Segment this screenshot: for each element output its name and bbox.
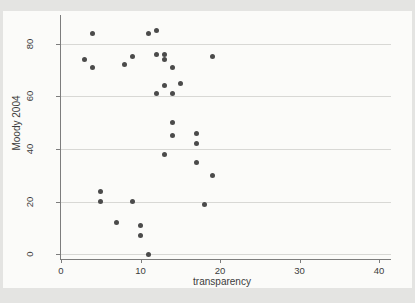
data-point (82, 57, 87, 62)
y-axis-title: Moody 2004 (11, 95, 22, 150)
data-point (162, 83, 167, 88)
y-gridline (61, 44, 391, 45)
x-tick-mark (220, 259, 221, 263)
y-tick-label: 0 (24, 252, 35, 257)
data-point (138, 223, 143, 228)
y-tick-label: 80 (24, 38, 35, 49)
data-point (90, 31, 95, 36)
y-gridline (61, 254, 391, 255)
y-gridline (61, 202, 391, 203)
data-point (170, 65, 175, 70)
y-tick-mark (56, 202, 60, 203)
x-tick-label: 0 (58, 265, 63, 276)
y-tick-label: 20 (24, 196, 35, 207)
x-tick-mark (61, 259, 62, 263)
data-point (146, 31, 151, 36)
data-point (98, 189, 103, 194)
data-point (138, 233, 143, 238)
graph-canvas: Moody 2004 transparency 0204060800102030… (3, 11, 412, 288)
data-point (170, 133, 175, 138)
data-point (162, 57, 167, 62)
y-tick-mark (56, 96, 60, 97)
data-point (170, 91, 175, 96)
data-point (162, 52, 167, 57)
data-point (122, 62, 127, 67)
y-tick-label: 40 (24, 144, 35, 155)
data-point (114, 220, 119, 225)
y-gridline (61, 96, 391, 97)
plot-area: Moody 2004 transparency 0204060800102030… (60, 15, 391, 260)
data-point (146, 252, 151, 257)
x-tick-mark (379, 259, 380, 263)
data-point (98, 199, 103, 204)
y-tick-mark (56, 149, 60, 150)
data-point (154, 28, 159, 33)
x-tick-label: 20 (215, 265, 226, 276)
data-point (154, 52, 159, 57)
y-tick-label: 60 (24, 91, 35, 102)
x-tick-label: 10 (135, 265, 146, 276)
y-tick-mark (56, 254, 60, 255)
stata-scatter-screenshot: { "chart_data": { "type": "scatter", "ti… (0, 0, 415, 303)
x-axis-title: transparency (193, 276, 251, 287)
y-gridline (61, 149, 391, 150)
x-tick-mark (300, 259, 301, 263)
x-tick-label: 30 (294, 265, 305, 276)
data-point (194, 160, 199, 165)
data-point (154, 91, 159, 96)
data-point (194, 141, 199, 146)
data-point (178, 81, 183, 86)
data-point (202, 202, 207, 207)
data-point (194, 131, 199, 136)
data-point (130, 54, 135, 59)
x-tick-mark (141, 259, 142, 263)
data-point (90, 65, 95, 70)
data-point (162, 152, 167, 157)
data-point (210, 173, 215, 178)
data-point (210, 54, 215, 59)
data-point (170, 120, 175, 125)
data-point (130, 199, 135, 204)
x-tick-label: 40 (374, 265, 385, 276)
y-tick-mark (56, 44, 60, 45)
